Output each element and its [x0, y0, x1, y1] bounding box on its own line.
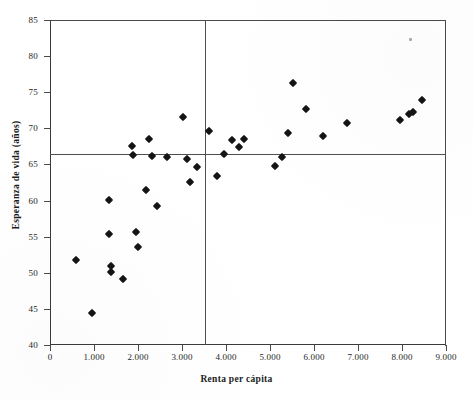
x-tick-label: 2.000 [118, 352, 158, 362]
plot-area [50, 20, 446, 345]
y-axis-title: Esperanza de vida (años) [11, 95, 21, 255]
x-tick [182, 345, 183, 351]
x-tick-label: 3.000 [162, 352, 202, 362]
y-tick [44, 309, 50, 310]
x-tick [94, 345, 95, 351]
y-tick [44, 201, 50, 202]
x-tick-label: 5.000 [250, 352, 290, 362]
plot-frame-right [445, 20, 446, 346]
y-tick [44, 237, 50, 238]
y-tick-label: 80 [12, 51, 38, 61]
x-tick [446, 345, 447, 351]
y-tick-label: 40 [12, 340, 38, 350]
plot-frame-top [50, 20, 446, 21]
x-tick-label: 8.000 [382, 352, 422, 362]
x-tick [314, 345, 315, 351]
y-tick [44, 92, 50, 93]
x-tick [402, 345, 403, 351]
y-tick-label: 50 [12, 268, 38, 278]
x-tick-label: 6.000 [294, 352, 334, 362]
y-tick [44, 20, 50, 21]
y-tick-label: 85 [12, 15, 38, 25]
x-tick-label: 9.000 [426, 352, 466, 362]
x-tick-label: 7.000 [338, 352, 378, 362]
scatter-plot-figure: 40455055606570758085 01.0002.0003.0004.0… [0, 0, 473, 400]
x-tick [358, 345, 359, 351]
y-tick [44, 273, 50, 274]
scan-artifact-speck [409, 38, 412, 41]
x-tick [270, 345, 271, 351]
x-tick-label: 4.000 [206, 352, 246, 362]
reference-line-horizontal [50, 154, 446, 155]
y-tick [44, 128, 50, 129]
x-tick-label: 0 [30, 352, 70, 362]
reference-line-vertical [205, 20, 206, 345]
x-tick [50, 345, 51, 351]
y-tick [44, 56, 50, 57]
x-axis-title: Renta per cápita [0, 374, 473, 384]
x-tick [226, 345, 227, 351]
x-tick [138, 345, 139, 351]
y-tick [44, 164, 50, 165]
y-tick-label: 45 [12, 304, 38, 314]
x-tick-label: 1.000 [74, 352, 114, 362]
